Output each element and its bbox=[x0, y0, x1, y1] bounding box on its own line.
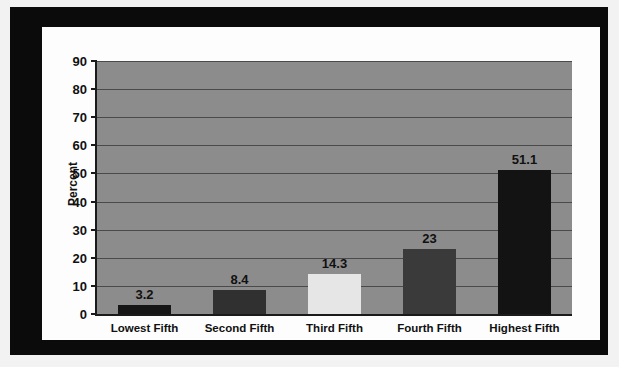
chart-card: Percent 90807060504030201003.2Lowest Fif… bbox=[42, 27, 600, 340]
x-axis-category-label: Third Fifth bbox=[306, 322, 363, 334]
x-axis-category-label: Fourth Fifth bbox=[397, 322, 462, 334]
bar-value-label: 14.3 bbox=[322, 256, 347, 271]
bar-value-label: 51.1 bbox=[512, 152, 537, 167]
x-axis-category-label: Lowest Fifth bbox=[111, 322, 179, 334]
x-axis-category-label: Highest Fifth bbox=[489, 322, 559, 334]
bar[interactable] bbox=[403, 249, 456, 314]
y-axis-tick-label: 10 bbox=[73, 278, 87, 293]
chart-screenshot: Percent 90807060504030201003.2Lowest Fif… bbox=[0, 0, 619, 367]
y-axis-tick-label: 20 bbox=[73, 250, 87, 265]
y-axis-tick-label: 80 bbox=[73, 82, 87, 97]
y-axis-tick-label: 40 bbox=[73, 194, 87, 209]
bar[interactable] bbox=[498, 170, 551, 314]
y-axis-tick-label: 50 bbox=[73, 166, 87, 181]
x-axis-category-label: Second Fifth bbox=[205, 322, 275, 334]
outer-black-frame: Percent 90807060504030201003.2Lowest Fif… bbox=[10, 7, 608, 355]
plot-area: 90807060504030201003.2Lowest Fifth8.4Sec… bbox=[95, 61, 572, 316]
bar-group: 8.4Second Fifth bbox=[192, 61, 287, 314]
bar[interactable] bbox=[213, 290, 266, 314]
bar-group: 14.3Third Fifth bbox=[287, 61, 382, 314]
bar-group: 3.2Lowest Fifth bbox=[97, 61, 192, 314]
y-axis-tick-label: 70 bbox=[73, 110, 87, 125]
y-axis-tick-label: 30 bbox=[73, 222, 87, 237]
y-axis-tick-label: 0 bbox=[80, 307, 87, 322]
bar[interactable] bbox=[308, 274, 361, 314]
y-axis-tick-label: 60 bbox=[73, 138, 87, 153]
bar-group: 51.1Highest Fifth bbox=[477, 61, 572, 314]
bar-value-label: 23 bbox=[422, 231, 436, 246]
bar[interactable] bbox=[118, 305, 171, 314]
y-axis-tick-label: 90 bbox=[73, 54, 87, 69]
bar-value-label: 8.4 bbox=[230, 272, 248, 287]
bar-group: 23Fourth Fifth bbox=[382, 61, 477, 314]
bar-value-label: 3.2 bbox=[135, 287, 153, 302]
